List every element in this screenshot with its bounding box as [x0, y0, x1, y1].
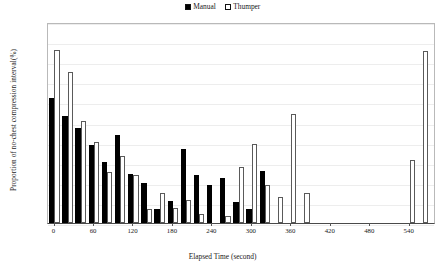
bar-thumper-320	[265, 185, 270, 223]
x-tick-label: 420	[325, 227, 335, 234]
chart-figure: Manual Thumper Proportion of no-chest co…	[0, 0, 445, 271]
x-tick-label: 0	[52, 227, 55, 234]
x-tick-mark	[251, 223, 252, 226]
x-axis-ticks: 060120180240300360420480540	[47, 227, 435, 239]
legend-entry-thumper: Thumper	[225, 2, 261, 11]
legend-swatch-thumper-icon	[225, 4, 231, 10]
gridline	[48, 225, 434, 226]
x-tick-mark	[211, 223, 212, 226]
bar-thumper-220	[199, 214, 204, 223]
y-axis-title: Proportion of no-chest compression inter…	[10, 20, 18, 220]
bar-thumper-200	[186, 200, 191, 223]
bar-thumper-40	[81, 121, 86, 224]
x-tick-label: 180	[167, 227, 177, 234]
x-tick-label: 240	[206, 227, 216, 234]
bar-series-group	[48, 24, 434, 223]
chart-legend: Manual Thumper	[0, 2, 445, 11]
x-tick-label: 540	[404, 227, 414, 234]
bar-thumper-60	[94, 142, 99, 223]
x-axis-title: Elapsed Time (second)	[0, 252, 445, 261]
bar-thumper-340	[278, 197, 283, 223]
bar-thumper-180	[173, 208, 178, 223]
plot-area	[47, 23, 435, 224]
legend-label-thumper: Thumper	[233, 2, 260, 11]
bar-thumper-560	[423, 51, 428, 223]
x-tick-label: 300	[246, 227, 256, 234]
x-tick-mark	[290, 223, 291, 226]
legend-swatch-manual-icon	[185, 4, 191, 10]
bar-thumper-80	[107, 172, 112, 223]
x-tick-label: 360	[285, 227, 295, 234]
bar-thumper-260	[225, 216, 230, 223]
bar-thumper-300	[252, 144, 257, 223]
bar-thumper-380	[304, 193, 309, 223]
x-tick-label: 480	[364, 227, 374, 234]
bar-thumper-540	[410, 160, 415, 223]
bar-thumper-20	[68, 72, 73, 223]
x-tick-label: 120	[127, 227, 137, 234]
x-tick-mark	[54, 223, 55, 226]
x-tick-mark	[369, 223, 370, 226]
bar-thumper-100	[120, 156, 125, 223]
bar-manual-240	[207, 185, 212, 223]
bar-thumper-160	[160, 193, 165, 223]
bar-thumper-120	[133, 175, 138, 223]
bar-thumper-140	[147, 209, 152, 223]
x-tick-mark	[409, 223, 410, 226]
x-tick-label: 60	[90, 227, 97, 234]
legend-label-manual: Manual	[193, 2, 216, 11]
x-tick-mark	[132, 223, 133, 226]
x-tick-mark	[172, 223, 173, 226]
legend-entry-manual: Manual	[185, 2, 216, 11]
bar-thumper-0	[54, 50, 59, 223]
x-tick-mark	[330, 223, 331, 226]
x-tick-mark	[93, 223, 94, 226]
bar-thumper-280	[239, 167, 244, 223]
bar-thumper-360	[291, 114, 296, 223]
